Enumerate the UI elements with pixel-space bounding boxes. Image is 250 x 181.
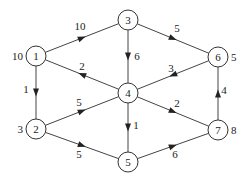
edge-2-4: 5 [45,96,118,125]
node-value: 3 [18,123,24,135]
edge-6-4: 3 [137,61,208,90]
graph-canvas: 1021653551264 110233456578 [0,0,250,181]
node-3: 3 [118,10,138,30]
arrowhead-icon [77,37,86,43]
edge-4-5: 1 [125,103,139,152]
arrowhead-icon [77,141,86,147]
edge-weight: 5 [76,148,82,160]
edge-weight: 6 [172,148,178,160]
edge-4-1: 2 [45,60,118,90]
node-4: 4 [118,83,138,103]
node-1: 110 [12,46,46,66]
edge-weight: 1 [133,119,139,131]
node-2: 23 [18,119,47,139]
edge-weight: 2 [79,60,85,72]
edge-5-7: 6 [137,133,208,160]
node-label: 3 [125,14,131,26]
edge-1-2: 1 [23,66,39,119]
edge-weight: 5 [76,96,82,108]
edge-1-3: 10 [45,20,118,52]
edge-2-5: 5 [45,132,118,160]
edge-3-6: 5 [137,22,209,53]
nodes-layer: 110233456578 [12,10,237,172]
edge-weight: 6 [134,50,140,62]
node-7: 78 [208,120,237,140]
node-value: 10 [12,50,24,62]
arrowhead-icon [125,124,131,132]
arrowhead-icon [78,73,87,79]
arrowhead-icon [125,53,131,61]
edge-weight: 3 [168,62,174,74]
node-label: 6 [215,51,221,63]
edge-weight: 1 [23,83,29,95]
node-label: 4 [125,87,131,99]
arrowhead-icon [77,110,86,116]
edge-3-4: 6 [125,30,140,83]
node-label: 7 [215,124,221,136]
arrowhead-icon [215,90,221,98]
edge-weight: 5 [174,22,180,34]
node-value: 8 [231,124,237,136]
arrowhead-icon [168,34,177,40]
edge-weight: 10 [75,20,87,32]
node-label: 5 [125,156,131,168]
edge-weight: 4 [221,84,227,96]
node-label: 2 [33,123,39,135]
node-5: 5 [118,152,138,172]
node-6: 65 [208,47,237,67]
edge-4-7: 2 [137,97,209,126]
edge-7-6: 4 [215,67,227,120]
edge-weight: 2 [174,97,180,109]
arrowhead-icon [33,89,39,97]
node-value: 5 [231,51,237,63]
node-label: 1 [33,50,39,62]
